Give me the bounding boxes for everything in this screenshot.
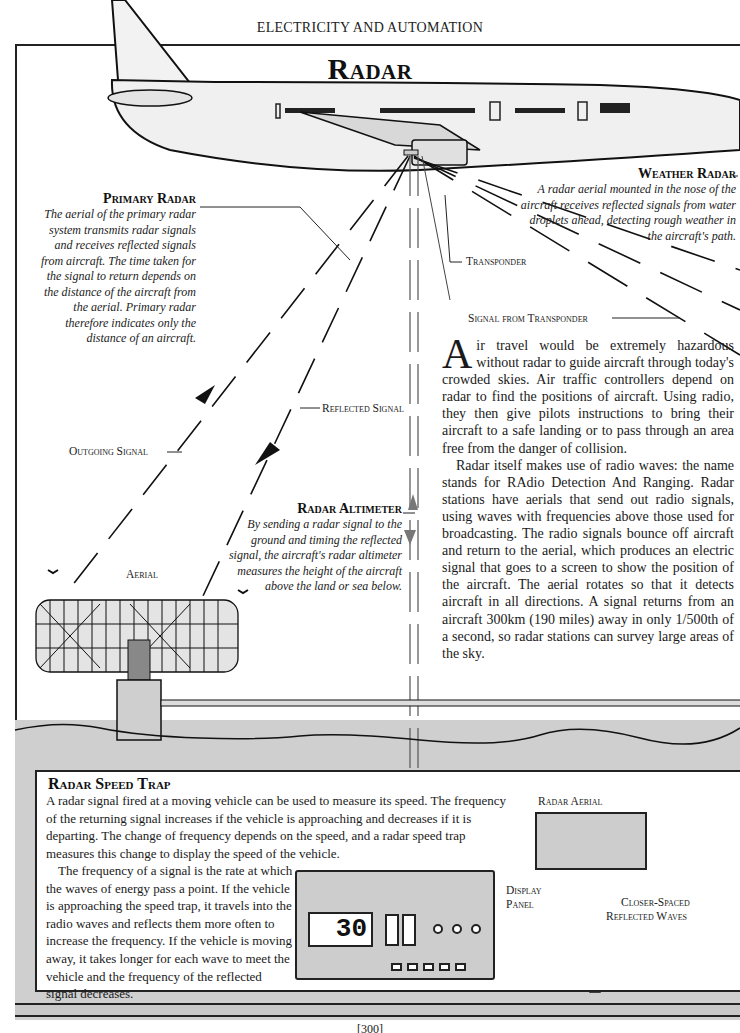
panel-button-2 [407, 963, 418, 971]
speed-readout: 30 [308, 912, 373, 947]
segment-digit-1 [385, 914, 399, 946]
label-signal-from-transponder: Signal from Transponder [468, 312, 588, 324]
panel-button-5 [455, 963, 466, 971]
page-title: Radar [0, 52, 740, 86]
weather-radar-heading: Weather Radar [520, 166, 736, 182]
drop-cap: A [442, 337, 472, 371]
dial-knob-1 [433, 924, 443, 934]
radar-altimeter-text: By sending a radar signal to the ground … [224, 517, 402, 595]
panel-button-1 [391, 963, 402, 971]
weather-radar-caption: Weather Radar A radar aerial mounted in … [520, 166, 736, 244]
label-outgoing-signal: Outgoing Signal [69, 445, 148, 457]
primary-radar-text: The aerial of the primary radar system t… [38, 207, 196, 347]
label-radar-aerial: Radar Aerial [538, 795, 602, 807]
footer-bar [15, 1003, 740, 1017]
segment-digit-2 [402, 914, 416, 946]
dial-knob-3 [471, 924, 481, 934]
label-display-line-2: Panel [506, 898, 534, 910]
primary-radar-caption: Primary Radar The aerial of the primary … [38, 191, 196, 347]
label-reflected-signal: Reflected Signal [322, 402, 404, 414]
primary-radar-heading: Primary Radar [38, 191, 196, 207]
running-head: ELECTRICITY AND AUTOMATION [0, 20, 740, 36]
speed-trap-radar-aerial [535, 812, 647, 870]
article-paragraph-2: Radar itself makes use of radio waves: t… [442, 457, 734, 662]
label-closer-spaced-line-1: Closer-Spaced [621, 896, 690, 908]
label-aerial: Aerial [126, 568, 158, 580]
label-closer-spaced-line-2: Reflected Waves [606, 910, 687, 922]
weather-radar-text: A radar aerial mounted in the nose of th… [520, 182, 736, 244]
article-body: Air travel would be extremely hazardous … [442, 337, 734, 662]
speed-trap-heading: Radar Speed Trap [48, 775, 171, 793]
radar-altimeter-caption: Radar Altimeter By sending a radar signa… [224, 501, 402, 595]
radar-altimeter-heading: Radar Altimeter [224, 501, 402, 517]
dial-knob-2 [452, 924, 462, 934]
speed-trap-paragraph-1: A radar signal fired at a moving vehicle… [46, 792, 516, 862]
panel-button-3 [423, 963, 434, 971]
panel-button-4 [439, 963, 450, 971]
label-transponder: Transponder [466, 255, 526, 267]
speed-trap-paragraph-2: The frequency of a signal is the rate at… [46, 862, 296, 1003]
label-display-line-1: Display [506, 884, 542, 896]
article-paragraph-1: Air travel would be extremely hazardous … [442, 337, 734, 457]
page-number: [300] [0, 1022, 740, 1033]
